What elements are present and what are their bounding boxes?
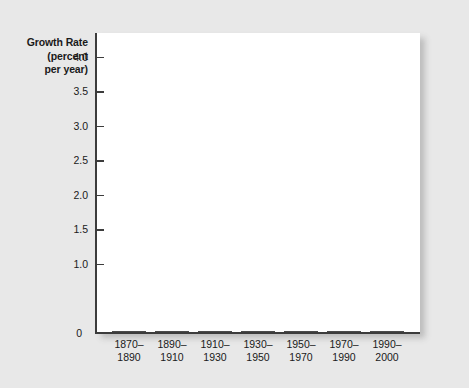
y-axis-tick-label: 1.5 (73, 223, 88, 236)
y-axis-tick-label: 4.0 (73, 51, 88, 64)
y-axis-tick-mark (97, 160, 104, 162)
y-axis-tick-mark (97, 57, 104, 59)
y-axis-tick-mark (97, 264, 104, 266)
y-axis-title-line: Growth Rate (8, 36, 88, 50)
y-axis-tick: 1.5 (0, 223, 104, 236)
x-axis-line (95, 332, 420, 334)
bar-3[interactable] (198, 243, 232, 333)
y-axis-tick: 0 (0, 327, 104, 340)
y-axis-tick: 1.0 (0, 258, 104, 271)
bar-7[interactable] (370, 214, 404, 333)
y-axis-tick: 3.5 (0, 85, 104, 98)
x-axis-label: 1990–2000 (362, 338, 412, 364)
bar-2[interactable] (155, 230, 189, 333)
y-axis-tick-mark (97, 91, 104, 93)
y-axis-tick-label: 2.5 (73, 154, 88, 167)
bar-5[interactable] (284, 66, 318, 333)
bar-chart-figure: Growth Rate(percentper year) 01.01.52.02… (0, 0, 469, 388)
y-axis-title-line: per year) (8, 63, 88, 77)
x-axis-label-line: 2000 (362, 351, 412, 364)
y-axis-line (95, 33, 97, 334)
bar-4[interactable] (241, 236, 275, 333)
y-axis-tick: 2.0 (0, 189, 104, 202)
y-axis-tick-label: 3.0 (73, 120, 88, 133)
y-axis-tick-mark (97, 229, 104, 231)
y-axis-tick: 2.5 (0, 154, 104, 167)
bar-6[interactable] (327, 182, 361, 333)
y-axis-tick: 4.0 (0, 51, 104, 64)
y-axis-tick-label: 2.0 (73, 189, 88, 202)
x-axis-label-line: 1990– (362, 338, 412, 351)
bar-1[interactable] (112, 252, 146, 333)
y-axis-tick: 3.0 (0, 120, 104, 133)
y-axis-tick-mark (97, 195, 104, 197)
plot-area (96, 33, 420, 333)
y-axis-tick-label: 1.0 (73, 258, 88, 271)
y-axis-tick-mark (97, 126, 104, 128)
y-axis-tick-label: 0 (76, 327, 82, 340)
y-axis-tick-label: 3.5 (73, 85, 88, 98)
